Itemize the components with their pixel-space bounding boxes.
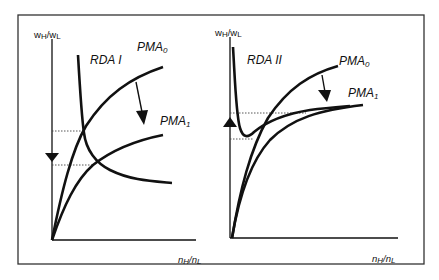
label-rda2: RDA II [247, 53, 283, 67]
x-axis-label-right: nH/nL [372, 253, 395, 265]
curve-pma0-left [52, 67, 163, 240]
shift-arrow-shaft-right [322, 75, 325, 92]
label-pma1-right: PMA1 [348, 86, 378, 101]
panel-left: wH/wL nH/nL RDA I PMA0 PMA1 [33, 29, 201, 266]
curve-pma1-left [52, 135, 163, 240]
shift-arrow-down-icon-right [318, 90, 331, 102]
label-rda1: RDA I [90, 53, 122, 67]
axis-arrow-down-icon [45, 153, 59, 162]
curve-pma1-right [232, 105, 363, 238]
y-axis-label-right: wH/wL [214, 27, 242, 39]
panel-right: wH/wL nH/nL RDA II PMA0 PMA1 [214, 27, 398, 265]
axis-arrow-up-icon [223, 117, 237, 127]
shift-arrow-shaft-left [136, 82, 142, 112]
label-pma0-right: PMA0 [339, 54, 370, 69]
label-pma0-left: PMA0 [137, 40, 168, 55]
diagram-canvas: wH/wL nH/nL RDA I PMA0 PMA1 wH/wL [0, 0, 439, 280]
label-pma1-left: PMA1 [160, 114, 190, 129]
shift-arrow-down-icon-left [136, 110, 148, 125]
y-axis-label-left: wH/wL [33, 29, 61, 41]
x-axis-label-left: nH/nL [178, 254, 201, 266]
